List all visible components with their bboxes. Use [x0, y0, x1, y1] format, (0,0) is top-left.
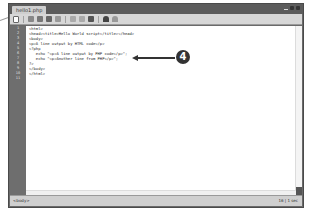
save-icon[interactable]: [37, 16, 43, 22]
editor-window: hello1.php 1 2 3 4 5 6 7 8 9: [8, 3, 304, 208]
tag-selector[interactable]: <body>: [13, 198, 30, 203]
callout-badge: 4: [176, 50, 190, 64]
copy-icon[interactable]: [79, 16, 85, 22]
toolbar: [10, 14, 302, 25]
save-all-icon[interactable]: [46, 16, 52, 22]
print-icon[interactable]: [55, 16, 61, 22]
close-icon[interactable]: [296, 6, 300, 10]
status-info: 16 | 1 sec: [278, 198, 298, 203]
open-icon[interactable]: [28, 16, 34, 22]
new-file-icon[interactable]: [13, 16, 19, 23]
minimize-icon[interactable]: [284, 6, 288, 10]
toolbar-separator: [23, 16, 24, 23]
line-number-gutter: 1 2 3 4 5 6 7 8 9 10 11: [10, 26, 26, 195]
callout-arrow-line: [137, 57, 175, 59]
code-line: [29, 76, 294, 81]
undo-icon[interactable]: [103, 16, 109, 22]
toolbar-separator: [65, 16, 66, 23]
status-bar: <body> 16 | 1 sec: [10, 195, 302, 206]
title-bar: hello1.php: [9, 4, 303, 14]
file-tab[interactable]: hello1.php: [12, 6, 46, 14]
code-editor[interactable]: 1 2 3 4 5 6 7 8 9 10 11 <html> <head><ti…: [10, 26, 302, 195]
toolbar-separator: [98, 16, 99, 23]
window-controls: [284, 6, 300, 10]
vertical-scrollbar[interactable]: [295, 26, 302, 195]
maximize-icon[interactable]: [290, 6, 294, 10]
line-number: 11: [10, 76, 26, 81]
code-text[interactable]: <html> <head><title>Hello World script</…: [29, 26, 294, 81]
scrollbar-thumb[interactable]: [296, 187, 302, 195]
paste-icon[interactable]: [88, 16, 94, 22]
redo-icon[interactable]: [112, 16, 118, 22]
cut-icon[interactable]: [70, 16, 76, 22]
